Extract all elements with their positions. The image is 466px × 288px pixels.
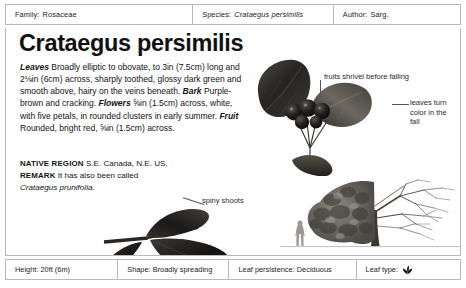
annotation-leaves-turn-color: leaves turn color in the fall — [410, 98, 456, 127]
plant-reference-card: Family: Rosaceae Species: Crataegus pers… — [0, 0, 466, 288]
fruit-text: Rounded, bright red, ⅝in (1.5cm) across. — [20, 123, 175, 133]
taxonomy-header-row: Family: Rosaceae Species: Crataegus pers… — [5, 4, 461, 25]
leader-line-leaves — [392, 104, 409, 105]
family-label: Family: — [15, 10, 40, 19]
shape-cell: Shape: Broadly spreading — [117, 260, 228, 279]
remark-text-before: It has also been called — [58, 171, 139, 180]
description-paragraph: Leaves Broadly elliptic to obovate, to 3… — [20, 61, 248, 134]
author-value: Sarg. — [370, 10, 388, 19]
species-value: Crataegus persimilis — [234, 10, 303, 19]
author-label: Author: — [343, 10, 368, 19]
leaf-icon — [402, 265, 413, 275]
leaf-shape-lower-left — [104, 242, 142, 256]
height-cell: Height: 20ft (6m) — [6, 260, 117, 279]
fruit-label: Fruit — [219, 111, 238, 121]
leader-line-spiny — [183, 197, 204, 205]
bark-label: Bark — [183, 86, 202, 96]
family-cell: Family: Rosaceae — [6, 5, 192, 24]
remark-italic-name: Crataegus prunifolia — [20, 183, 92, 192]
family-value: Rosaceae — [43, 10, 77, 19]
spiny-shoot-illustration — [102, 206, 234, 256]
leaf-type-label: Leaf type: — [366, 265, 398, 274]
leaf-shape-lower — [292, 155, 332, 176]
author-cell: Author: Sarg. — [333, 5, 460, 24]
native-region-value: S.E. Canada, N.E. US. — [86, 159, 168, 168]
remark-text-after: . — [92, 183, 94, 192]
card-body: Crataegus persimilis Leaves Broadly elli… — [5, 28, 461, 256]
page-title: Crataegus persimilis — [19, 32, 243, 56]
leader-line-fruits — [320, 80, 321, 97]
human-scale-silhouette — [295, 221, 304, 247]
tree-canopy — [308, 181, 375, 244]
attributes-footer-row: Height: 20ft (6m) Shape: Broadly spreadi… — [5, 259, 461, 280]
remark-label: REMARK — [20, 171, 56, 180]
tree-scale-illustration — [274, 176, 461, 254]
flowers-label: Flowers — [98, 98, 130, 108]
annotation-spiny-shoots: spiny shoots — [202, 196, 244, 206]
native-region-row: NATIVE REGION S.E. Canada, N.E. US. — [20, 158, 175, 169]
leaves-label: Leaves — [20, 62, 49, 72]
annotation-fruits-shrivel: fruits shrivel before falling — [324, 72, 409, 82]
species-cell: Species: Crataegus persimilis — [192, 5, 333, 24]
native-region-label: NATIVE REGION — [20, 159, 84, 168]
leaf-type-cell: Leaf type: — [356, 260, 460, 279]
leaf-persistence-cell: Leaf persistence: Deciduous — [228, 260, 355, 279]
leaf-shape-upper — [146, 209, 209, 238]
remark-row: REMARK It has also been called Crataegus… — [20, 170, 175, 193]
fact-block: NATIVE REGION S.E. Canada, N.E. US. REMA… — [20, 158, 175, 193]
leaf-shape-large-right — [150, 239, 228, 257]
twig-stem — [104, 238, 148, 242]
species-label: Species: — [202, 10, 231, 19]
bare-branches — [375, 180, 454, 240]
